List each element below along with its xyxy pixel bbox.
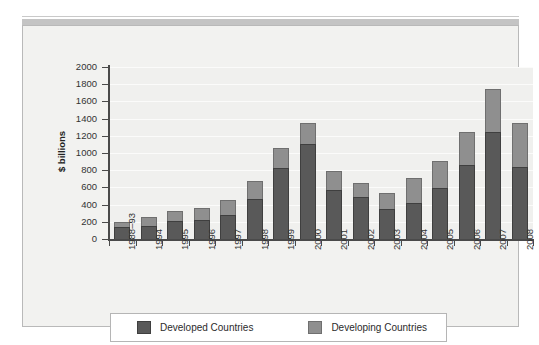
figure-frame: $ billions 02004006008001000120014001600… — [22, 25, 519, 327]
bar-segment-developing — [485, 89, 501, 132]
y-axis-tick-label: 200 — [55, 217, 97, 226]
legend-label-developing: Developing Countries — [331, 322, 427, 333]
bar-segment-developing — [459, 132, 475, 164]
x-axis-tick-label: 1998 — [259, 190, 270, 250]
x-axis-tick-label: 2000 — [312, 190, 323, 250]
y-axis-tick-label: 1200 — [55, 131, 97, 140]
x-axis-tick-label: 1996 — [206, 190, 217, 250]
x-axis-tick-label: 1995 — [179, 190, 190, 250]
x-axis-tick-label: 2006 — [471, 190, 482, 250]
legend-item-developing[interactable]: Developing Countries — [308, 321, 427, 334]
y-axis-tick — [102, 187, 108, 188]
chart-legend: Developed CountriesDeveloping Countries — [110, 313, 447, 342]
x-axis-tick-label: 1999 — [285, 190, 296, 250]
y-axis-tick — [102, 119, 108, 120]
x-axis-tick-label: 2004 — [418, 190, 429, 250]
legend-swatch-developing — [308, 321, 322, 334]
bar-segment-developing — [273, 148, 289, 168]
y-axis-tick — [102, 101, 108, 102]
legend-item-developed[interactable]: Developed Countries — [137, 321, 253, 334]
x-axis-tick-label: 2001 — [338, 190, 349, 250]
y-axis-tick — [102, 222, 108, 223]
y-axis-tick — [102, 84, 108, 85]
y-axis-tick — [102, 205, 108, 206]
y-axis-tick-label: 800 — [55, 165, 97, 174]
y-axis-tick-label: 1600 — [55, 96, 97, 105]
y-axis-tick-label: 1800 — [55, 79, 97, 88]
y-axis-tick-label: 1000 — [55, 148, 97, 157]
x-axis-tick-label: 2002 — [365, 190, 376, 250]
y-axis-tick-label: 0 — [55, 234, 97, 243]
x-axis-tick-label: 1997 — [232, 190, 243, 250]
x-axis-tick-label: 2007 — [497, 190, 508, 250]
y-axis-tick — [102, 67, 108, 68]
y-axis-tick-label: 1400 — [55, 114, 97, 123]
y-axis-tick — [102, 170, 108, 171]
bar-segment-developing — [432, 161, 448, 189]
y-axis-tick-label: 2000 — [55, 62, 97, 71]
x-axis-tick-label: 1994 — [153, 190, 164, 250]
y-axis-tick-label: 600 — [55, 182, 97, 191]
bar-segment-developing — [300, 123, 316, 145]
y-axis-tick — [102, 136, 108, 137]
y-axis-tick-label: 400 — [55, 200, 97, 209]
legend-label-developed: Developed Countries — [160, 322, 253, 333]
top-rule-divider — [22, 16, 519, 17]
chart-page: $ billions 02004006008001000120014001600… — [0, 0, 539, 345]
legend-swatch-developed — [137, 321, 151, 334]
x-axis-tick-label: 2003 — [391, 190, 402, 250]
x-axis-tick-label: 2005 — [444, 190, 455, 250]
bar-segment-developing — [512, 123, 528, 167]
x-axis-tick-label: 2008 — [524, 190, 535, 250]
x-axis-tick — [109, 241, 110, 246]
y-axis-tick — [102, 153, 108, 154]
x-axis-tick-label: 1988–93 — [126, 190, 137, 250]
y-axis-tick — [102, 239, 108, 240]
bar-segment-developing — [326, 171, 342, 189]
